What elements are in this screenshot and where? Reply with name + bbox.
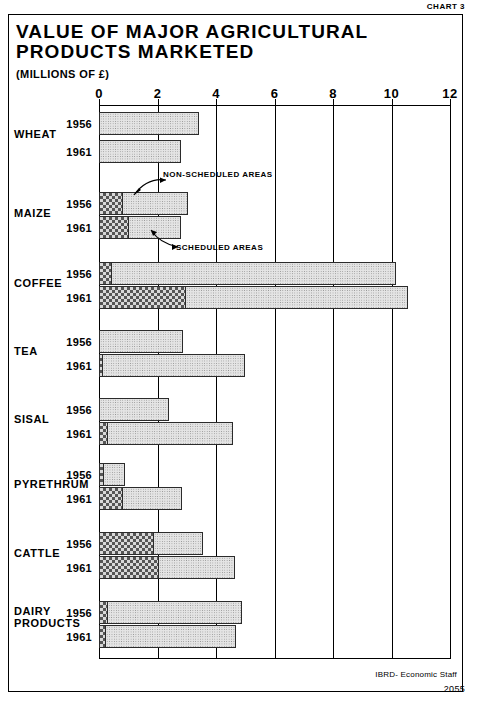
bar-wheat-1961 [99, 140, 181, 163]
bar-cattle-1956 [99, 532, 203, 555]
bar-segment-non-scheduled [108, 423, 231, 444]
annotation-scheduled-arrow [148, 228, 184, 252]
bar-segment-non-scheduled [186, 287, 406, 308]
category-label-sisal: SISAL [14, 413, 49, 425]
category-label-tea: TEA [14, 345, 38, 357]
title-line-1: VALUE OF MAJOR AGRICULTURAL [16, 21, 368, 42]
bar-segment-non-scheduled [154, 533, 202, 554]
year-label-1956: 1956 [52, 118, 92, 130]
year-label-1961: 1961 [52, 631, 92, 643]
chart-page: CHART 3 VALUE OF MAJOR AGRICULTURAL PROD… [0, 0, 479, 709]
year-label-1961: 1961 [52, 360, 92, 372]
bar-pyrethrum-1961 [99, 487, 182, 510]
bar-sisal-1956 [99, 398, 169, 421]
axis-bottom-rule [99, 658, 451, 659]
bar-segment-scheduled [100, 533, 154, 554]
title-line-2: PRODUCTS MARKETED [16, 42, 368, 62]
source-credit: IBRD- Economic Staff [375, 670, 457, 679]
category-label-maize: MAIZE [14, 207, 51, 219]
bar-cattle-1961 [99, 556, 235, 579]
category-label-coffee: COFFEE [14, 277, 62, 289]
category-label-line: MAIZE [14, 207, 51, 219]
year-label-1961: 1961 [52, 428, 92, 440]
bar-segment-non-scheduled [106, 626, 235, 647]
category-label-dairy-products: DAIRYPRODUCTS [14, 605, 81, 629]
chart-serial-number: 2055 [444, 684, 465, 694]
year-label-1961: 1961 [52, 292, 92, 304]
bar-segment-scheduled [100, 557, 159, 578]
chart-subtitle: (MILLIONS OF £) [16, 68, 109, 80]
bar-pyrethrum-1956 [99, 463, 125, 486]
bar-tea-1956 [99, 330, 183, 353]
category-label-line: TEA [14, 345, 38, 357]
category-label-line: WHEAT [14, 128, 57, 140]
category-label-pyrethrum: PYRETHRUM [14, 478, 89, 490]
chart-frame [8, 14, 463, 692]
bar-segment-non-scheduled [112, 263, 395, 284]
bar-segment-non-scheduled [100, 141, 180, 162]
bar-coffee-1956 [99, 262, 396, 285]
category-label-line: SISAL [14, 413, 49, 425]
bar-segment-non-scheduled [159, 557, 235, 578]
category-label-wheat: WHEAT [14, 128, 57, 140]
category-label-line: DAIRY [14, 605, 81, 617]
gridline-10 [392, 105, 393, 658]
bar-segment-non-scheduled [100, 331, 182, 352]
category-label-cattle: CATTLE [14, 547, 60, 559]
bar-segment-non-scheduled [100, 113, 198, 134]
bar-segment-non-scheduled [103, 355, 244, 376]
category-label-line: COFFEE [14, 277, 62, 289]
bar-segment-scheduled [100, 287, 186, 308]
bar-segment-non-scheduled [123, 488, 181, 509]
gridline-8 [333, 105, 334, 658]
bar-segment-non-scheduled [100, 399, 168, 420]
year-label-1956: 1956 [52, 404, 92, 416]
bar-segment-scheduled [100, 217, 129, 238]
year-label-1961: 1961 [52, 222, 92, 234]
year-label-1961: 1961 [52, 493, 92, 505]
category-label-line: CATTLE [14, 547, 60, 559]
category-label-line: PYRETHRUM [14, 478, 89, 490]
year-label-1956: 1956 [52, 336, 92, 348]
year-label-1961: 1961 [52, 146, 92, 158]
bar-segment-scheduled [100, 602, 108, 623]
year-label-1961: 1961 [52, 562, 92, 574]
bar-coffee-1961 [99, 286, 408, 309]
gridline-12 [450, 105, 451, 658]
bar-segment-scheduled [100, 423, 108, 444]
bar-sisal-1961 [99, 422, 233, 445]
bar-segment-non-scheduled [108, 602, 241, 623]
annotation-non-scheduled-arrow [118, 176, 170, 200]
gridline-6 [275, 105, 276, 658]
page-title: VALUE OF MAJOR AGRICULTURAL PRODUCTS MAR… [16, 22, 368, 62]
axis-top-rule [99, 105, 451, 106]
bar-dairy-products-1956 [99, 601, 242, 624]
chart-number-label: CHART 3 [427, 2, 465, 11]
category-label-line: PRODUCTS [14, 617, 81, 629]
bar-wheat-1956 [99, 112, 199, 135]
bar-segment-non-scheduled [104, 464, 124, 485]
year-label-1956: 1956 [52, 198, 92, 210]
annotation-non-scheduled: NON-SCHEDULED AREAS [163, 170, 273, 179]
bar-tea-1961 [99, 354, 245, 377]
bar-segment-scheduled [100, 263, 112, 284]
annotation-scheduled: SCHEDULED AREAS [176, 243, 263, 252]
bar-segment-scheduled [100, 488, 123, 509]
bar-dairy-products-1961 [99, 625, 236, 648]
